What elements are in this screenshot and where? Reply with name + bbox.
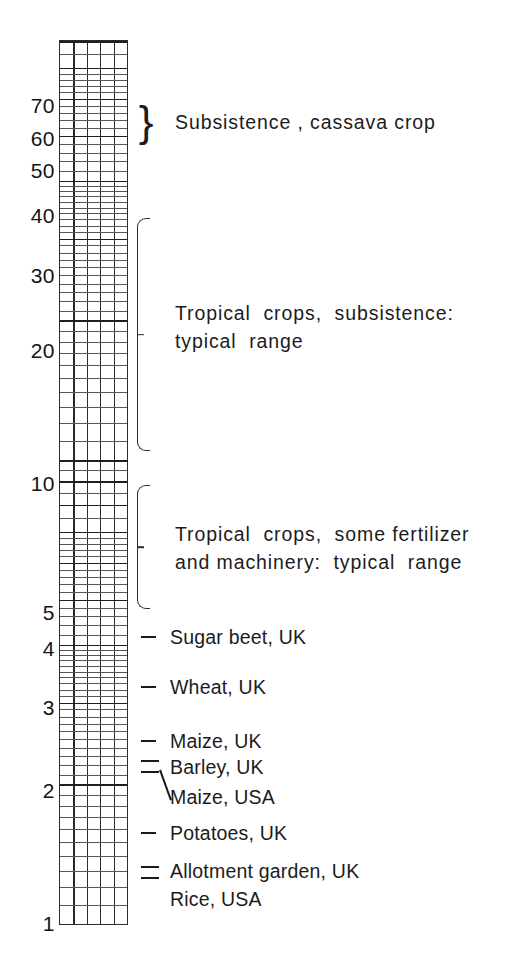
axis-tick-2: 2 [43,780,55,801]
annotation-rice-usa: Rice, USA [170,887,262,912]
dash-marker-wheat [141,686,156,688]
annotation-potatoes: Potatoes, UK [170,821,287,846]
grid-hline [60,505,127,507]
annotation-tropical-subsistence-line2: typical range [175,329,304,354]
annotation-maize-uk: Maize, UK [170,729,262,754]
annotation-maize-usa: Maize, USA [170,785,275,810]
annotation-allotment-garden: Allotment garden, UK [170,859,359,884]
annotation-wheat: Wheat, UK [170,675,266,700]
axis-tick-10: 10 [31,473,55,494]
grid-hline [60,181,127,183]
curly-brace-cassava: } [139,101,154,143]
grid-hline [60,703,127,705]
axis-tick-60: 60 [31,128,55,149]
grid-hline [60,99,127,101]
bracket-tropical-subsistence [137,218,150,451]
annotation-sugar-beet: Sugar beet, UK [170,625,306,650]
annotation-tropical-fertilizer-line2: and machinery: typical range [175,550,462,575]
bracket-tropical-fertilizer [137,485,150,609]
annotation-cassava: Subsistence , cassava crop [175,110,436,135]
axis-tick-5: 5 [43,602,55,623]
annotation-tropical-subsistence-line1: Tropical crops, subsistence: [175,301,454,326]
axis-tick-70: 70 [31,95,55,116]
dash-marker-maize-uk [141,740,156,742]
grid-hline [60,645,127,647]
dash-marker-sugar-beet [141,636,156,638]
grid-hline [60,320,127,322]
grid-hline [60,924,127,925]
dash-marker-barley-lower [141,771,159,773]
grid-hline [60,481,127,483]
axis-tick-50: 50 [31,160,55,181]
dash-marker-barley-upper [141,760,159,762]
dash-marker-allotment-upper [141,866,159,868]
dash-marker-allotment-lower [141,877,159,879]
axis-tick-4: 4 [43,638,55,659]
axis-tick-30: 30 [31,265,55,286]
grid-hline [60,136,127,138]
annotation-barley: Barley, UK [170,755,264,780]
grid-horizontal-major-lines [60,41,127,924]
axis-tick-20: 20 [31,340,55,361]
grid-hline [60,532,127,534]
grid-hline [60,784,127,786]
grid-hline [60,460,127,462]
annotation-tropical-fertilizer-line1: Tropical crops, some fertilizer [175,522,469,547]
grid-hline [60,563,127,565]
axis-tick-1: 1 [43,913,55,934]
dash-marker-potatoes [141,832,156,834]
axis-tick-40: 40 [31,205,55,226]
grid-hline [60,68,127,70]
axis-tick-3: 3 [43,697,55,718]
grid-hline [60,600,127,602]
log-scale-crop-yield-figure: 70 60 50 40 30 20 10 5 4 3 2 1 } Subsist… [0,0,519,976]
grid-hline [60,239,127,241]
grid-hline [60,41,127,43]
log-graph-paper-strip [59,40,128,925]
